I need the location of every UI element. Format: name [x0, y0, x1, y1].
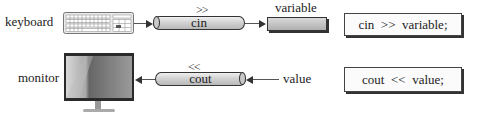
pipe-cap-icon — [239, 72, 246, 85]
variable-box — [267, 17, 327, 31]
arrow-right-icon — [146, 20, 153, 28]
cout-stream-pipe: cout — [155, 72, 246, 86]
monitor-label: monitor — [18, 71, 59, 85]
arrow-right-icon — [259, 20, 266, 28]
cout-label: cout — [189, 71, 211, 86]
cin-code-box: cin >> variable; — [344, 13, 462, 36]
keyboard-label: keyboard — [5, 15, 53, 29]
value-to-cout-line — [253, 79, 279, 80]
monitor-icon — [63, 52, 135, 115]
cin-label: cin — [191, 15, 207, 30]
cout-code-box: cout << value; — [344, 67, 462, 92]
cin-stream-pipe: cin — [153, 16, 245, 30]
variable-label: variable — [275, 1, 317, 15]
cout-to-monitor-line — [142, 79, 156, 80]
arrow-left-icon — [246, 76, 253, 84]
value-label: value — [283, 72, 311, 86]
keyboard-to-cin-line — [134, 23, 146, 24]
pipe-cap-icon — [153, 16, 160, 29]
cin-to-variable-line — [245, 23, 259, 24]
keyboard-icon — [63, 12, 134, 34]
arrow-left-icon — [135, 76, 142, 84]
